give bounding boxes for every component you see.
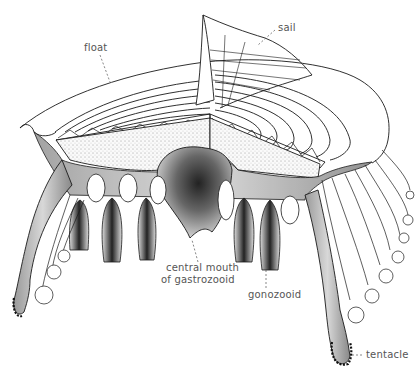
tentacle-right bbox=[305, 190, 350, 364]
label-central-mouth-line2: of gastrozooid bbox=[161, 274, 235, 286]
hydrozoan-diagram bbox=[0, 0, 419, 372]
label-central-mouth-line1: central mouth bbox=[166, 262, 239, 274]
label-tentacle: tentacle bbox=[366, 349, 409, 361]
label-gonozooid: gonozooid bbox=[248, 289, 301, 301]
label-sail: sail bbox=[278, 22, 296, 34]
label-float: float bbox=[84, 42, 107, 54]
